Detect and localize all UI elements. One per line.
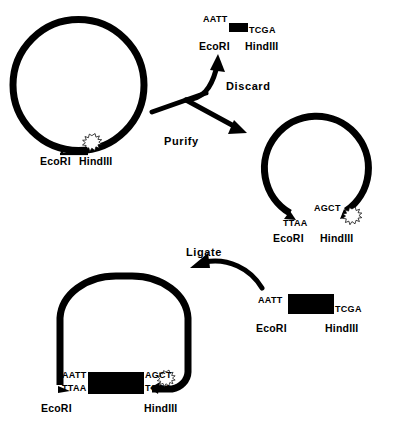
vector-right-overhang: AGCT [314,204,341,213]
recombinant-right-junction-bottom: TCGA [145,384,172,393]
discarded-fragment-ecori-label: EcoRI [199,41,230,52]
plasmid-cut-ecori-label: EcoRI [40,156,71,167]
purify-step-label: Purify [164,136,199,147]
vector-hindiii-label: HindIII [320,233,353,244]
discard-arrow-shaft [186,70,216,100]
insert-left-overhang: AATT [258,296,283,305]
insert-hindiii-label: HindIII [325,323,358,334]
restriction-cloning-diagram: AATT TCGA EcoRI HindIII EcoRI HindIII Di… [0,0,399,429]
insert-right-overhang: TCGA [335,305,362,314]
recombinant-insert-box [88,372,144,394]
recombinant-right-junction-top: AGCT [145,371,172,380]
discard-arrow-head [210,54,225,72]
recombinant-left-junction-top: AATT [62,371,87,380]
plasmid-cut-hindiii-label: HindIII [79,156,112,167]
ligate-step-label: Ligate [186,247,222,258]
recombinant-hindiii-label: HindIII [144,403,177,414]
discarded-fragment-hindiii-label: HindIII [245,41,278,52]
discard-step-label: Discard [226,81,271,92]
plasmid-circle-cut [13,20,144,151]
discarded-fragment-right-overhang: TCGA [249,26,276,35]
purify-arrow-shaft [186,100,232,125]
discarded-fragment-left-overhang: AATT [203,15,228,24]
insert-fragment-box [288,294,334,314]
vector-left-overhang: TTAA [283,219,308,228]
vector-open-arc [264,116,368,213]
recombinant-left-junction-bottom: TTAA [62,384,87,393]
ligate-arrow-shaft [205,261,262,288]
discarded-fragment-bar [229,23,248,32]
insert-ecori-label: EcoRI [256,323,287,334]
vector-ecori-label: EcoRI [273,233,304,244]
recombinant-ecori-label: EcoRI [41,403,72,414]
diagram-graphics-layer [0,0,399,429]
